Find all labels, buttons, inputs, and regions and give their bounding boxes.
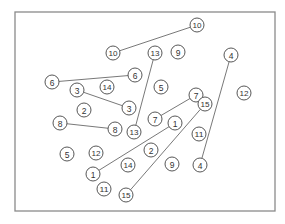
number-circle-15: 15 <box>119 188 133 202</box>
number-circle-5: 5 <box>154 80 168 94</box>
circle-number-label: 8 <box>113 125 118 135</box>
circle-number-label: 15 <box>122 191 131 200</box>
number-circle-9: 9 <box>165 157 179 171</box>
circle-number-label: 7 <box>194 91 199 101</box>
circle-number-label: 1 <box>91 170 96 180</box>
circle-number-label: 4 <box>198 161 203 171</box>
circle-number-label: 5 <box>65 150 70 160</box>
number-circle-6: 6 <box>45 75 59 89</box>
number-circle-10: 10 <box>106 46 120 60</box>
number-circle-10: 10 <box>190 18 204 32</box>
number-matching-diagram: 1010139466314571223157188131151221494111… <box>0 0 285 224</box>
circle-number-label: 12 <box>240 89 249 98</box>
circle-number-label: 7 <box>153 115 158 125</box>
number-circle-8: 8 <box>53 116 67 130</box>
number-circle-12: 12 <box>237 86 251 100</box>
number-circle-2: 2 <box>144 143 158 157</box>
number-circle-15: 15 <box>198 97 212 111</box>
circle-number-label: 11 <box>195 130 204 139</box>
circle-number-label: 9 <box>170 160 175 170</box>
circle-number-label: 6 <box>133 71 138 81</box>
circle-number-label: 2 <box>82 106 87 116</box>
circle-number-label: 13 <box>151 49 160 58</box>
connector-line-6 <box>59 76 128 82</box>
number-circle-4: 4 <box>224 48 238 62</box>
circle-number-label: 12 <box>92 149 101 158</box>
circle-number-label: 5 <box>159 83 164 93</box>
number-circle-11: 11 <box>192 127 206 141</box>
connector-line-7 <box>161 99 190 116</box>
connector-line-3 <box>84 92 123 105</box>
number-circle-14: 14 <box>100 80 114 94</box>
circle-number-label: 3 <box>75 86 80 96</box>
connector-line-15 <box>131 109 201 189</box>
circle-number-label: 8 <box>58 119 63 129</box>
circle-number-label: 11 <box>100 185 109 194</box>
numbered-circles: 1010139466314571223157188131151221494111… <box>45 18 251 202</box>
number-circle-14: 14 <box>121 158 135 172</box>
number-circle-5: 5 <box>60 147 74 161</box>
connector-line-8 <box>67 124 108 128</box>
circle-number-label: 9 <box>176 48 181 58</box>
number-circle-11: 11 <box>97 182 111 196</box>
number-circle-1: 1 <box>86 167 100 181</box>
circle-number-label: 15 <box>201 100 210 109</box>
number-circle-1: 1 <box>168 116 182 130</box>
diagram-frame <box>15 12 275 211</box>
circle-number-label: 14 <box>103 83 112 92</box>
circle-number-label: 10 <box>109 49 118 58</box>
circle-number-label: 13 <box>130 128 139 137</box>
circle-number-label: 10 <box>193 21 202 30</box>
number-circle-13: 13 <box>148 46 162 60</box>
number-circle-8: 8 <box>108 122 122 136</box>
circle-number-label: 4 <box>229 51 234 61</box>
circle-number-label: 1 <box>173 119 178 129</box>
number-circle-9: 9 <box>171 45 185 59</box>
circle-number-label: 6 <box>50 78 55 88</box>
number-circle-4: 4 <box>193 158 207 172</box>
number-circle-3: 3 <box>122 101 136 115</box>
number-circle-3: 3 <box>70 83 84 97</box>
circle-number-label: 14 <box>124 161 133 170</box>
number-circle-12: 12 <box>89 146 103 160</box>
number-circle-7: 7 <box>148 112 162 126</box>
number-circle-2: 2 <box>77 103 91 117</box>
number-circle-6: 6 <box>128 68 142 82</box>
circle-number-label: 3 <box>127 104 132 114</box>
number-circle-13: 13 <box>127 125 141 139</box>
circle-number-label: 2 <box>149 146 154 156</box>
